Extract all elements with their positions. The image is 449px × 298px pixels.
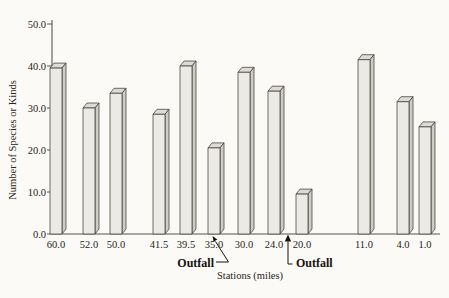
bar-front-face: [358, 60, 370, 234]
bars: [50, 55, 435, 234]
bar-side-face: [62, 63, 66, 234]
outfall-annotation-label-1: Outfall: [154, 257, 214, 270]
x-tick-label: 20.0: [280, 238, 324, 251]
bar-front-face: [238, 72, 250, 234]
bar: [83, 103, 99, 234]
x-tick-label: 11.0: [342, 238, 386, 251]
bar-side-face: [308, 189, 312, 234]
bar-front-face: [50, 68, 62, 234]
x-axis-title: Stations (miles): [150, 270, 350, 281]
y-tick-label: 20.0: [15, 144, 46, 157]
bar-front-face: [208, 148, 220, 234]
bar-front-face: [268, 91, 280, 234]
bar-front-face: [419, 127, 431, 234]
bar: [419, 122, 435, 234]
bar: [50, 63, 66, 234]
bar-front-face: [397, 102, 409, 234]
bar: [110, 88, 126, 234]
bar-front-face: [153, 114, 165, 234]
bar-side-face: [122, 88, 126, 234]
bar: [180, 61, 196, 234]
bar-side-face: [280, 86, 284, 234]
bar: [397, 97, 413, 234]
bar: [268, 86, 284, 234]
bar-front-face: [110, 93, 122, 234]
bar-side-face: [250, 67, 254, 234]
x-tick-label: 50.0: [94, 238, 138, 251]
chart-canvas: [0, 0, 449, 298]
bar-side-face: [431, 122, 435, 234]
bar-side-face: [95, 103, 99, 234]
y-tick-label: 50.0: [15, 18, 46, 31]
bar: [296, 189, 312, 234]
bar: [358, 55, 374, 234]
bar-front-face: [83, 108, 95, 234]
bar-front-face: [296, 194, 308, 234]
bar: [153, 109, 169, 234]
bar-front-face: [180, 66, 192, 234]
bar-side-face: [220, 143, 224, 234]
y-tick-label: 10.0: [15, 186, 46, 199]
y-tick-label: 40.0: [15, 60, 46, 73]
outfall-annotation-label-2: Outfall: [296, 257, 356, 270]
bar-side-face: [370, 55, 374, 234]
bar-side-face: [192, 61, 196, 234]
bar: [208, 143, 224, 234]
species-vs-station-bar-chart: Number of Species or Kinds 0.010.020.030…: [0, 0, 449, 298]
y-tick-label: 30.0: [15, 102, 46, 115]
bar: [238, 67, 254, 234]
x-tick-label: 1.0: [403, 238, 447, 251]
bar-side-face: [165, 109, 169, 234]
bar-side-face: [409, 97, 413, 234]
